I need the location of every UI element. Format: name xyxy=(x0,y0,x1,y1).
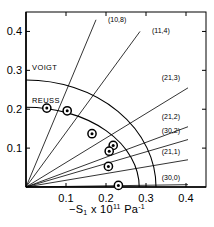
chart-figure: 0.10.20.30.40.10.20.30.4 VOIGTREUSS (10,… xyxy=(0,0,214,227)
radial-label: (21,1) xyxy=(162,148,180,156)
x-axis-label-exp: 11 xyxy=(113,203,121,210)
radial-label: (11,4) xyxy=(152,27,170,35)
y-tick-label: 0.4 xyxy=(7,25,22,37)
x-axis-label-mult: x 10 xyxy=(88,203,113,215)
data-point xyxy=(63,107,71,115)
y-tick-label: 0.2 xyxy=(7,103,22,115)
data-point xyxy=(88,130,96,138)
radial-label: (30,2) xyxy=(162,127,180,135)
radial-label: (30,0) xyxy=(162,174,180,182)
x-axis-label-text: −S xyxy=(69,203,83,215)
radial-labels-group: (10,8)(11,4)(21,3)(21,2)(30,2)(21,1)(30,… xyxy=(108,16,180,182)
data-point xyxy=(104,162,112,170)
radial-label: (21,2) xyxy=(162,113,180,121)
compliance-plot: 0.10.20.30.40.10.20.30.4 VOIGTREUSS (10,… xyxy=(0,0,214,227)
x-axis-label-unit: Pa xyxy=(121,203,138,215)
annotation-voigt: VOIGT xyxy=(32,63,57,72)
y-tick-label: 0.3 xyxy=(7,64,22,76)
x-axis-label: −S1 x 1011 Pa-1 xyxy=(0,203,214,215)
y-tick-label: 0.1 xyxy=(7,142,22,154)
x-axis-label-sub: 1 xyxy=(83,209,87,216)
radial-label: (21,3) xyxy=(162,74,180,82)
radial-label: (10,8) xyxy=(108,16,126,24)
x-axis-label-unit-exp: -1 xyxy=(138,203,145,210)
annotation-reuss: REUSS xyxy=(32,96,60,105)
annotations-group: VOIGTREUSS xyxy=(32,63,60,105)
data-point xyxy=(114,181,122,189)
data-point xyxy=(105,147,113,155)
